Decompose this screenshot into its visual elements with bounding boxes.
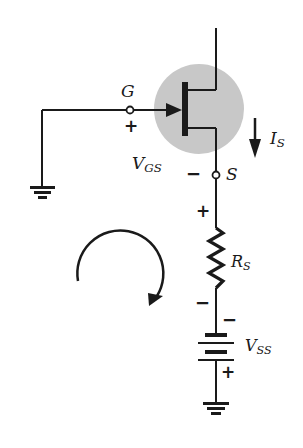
current-label: IS bbox=[270, 130, 285, 150]
resistor-rs bbox=[209, 228, 223, 288]
loop-arrow-icon bbox=[77, 231, 163, 306]
jfet-channel bbox=[182, 82, 188, 136]
gate-terminal bbox=[127, 107, 134, 114]
gate-label: G bbox=[121, 83, 135, 100]
battery-vss bbox=[198, 333, 234, 361]
rs-plus-sign: + bbox=[196, 203, 210, 220]
vgs-label-sub: GS bbox=[144, 161, 162, 175]
source-label: S bbox=[226, 166, 238, 183]
current-label-main: I bbox=[270, 128, 277, 148]
vss-label-main: V bbox=[245, 336, 257, 355]
vss-minus-sign: − bbox=[222, 311, 237, 329]
current-label-sub: S bbox=[277, 136, 285, 150]
rs-label-sub: S bbox=[243, 260, 251, 273]
vss-label-sub: SS bbox=[257, 344, 272, 357]
ground-icon-right bbox=[203, 402, 229, 415]
rs-label-main: R bbox=[231, 252, 243, 271]
circuit-diagram: G + VGS − S IS + RS − − VSS + bbox=[0, 0, 303, 448]
current-arrow-icon bbox=[249, 118, 261, 158]
vgs-label: VGS bbox=[132, 155, 162, 175]
rs-label: RS bbox=[231, 254, 251, 272]
source-terminal bbox=[213, 172, 220, 179]
vgs-minus-sign: − bbox=[186, 165, 201, 183]
rs-minus-sign: − bbox=[195, 294, 210, 312]
vss-label: VSS bbox=[245, 338, 272, 356]
ground-icon-left bbox=[30, 186, 55, 199]
circuit-schematic bbox=[0, 0, 303, 448]
vgs-plus-sign: + bbox=[124, 118, 138, 135]
vss-plus-sign: + bbox=[221, 364, 235, 381]
vgs-label-main: V bbox=[132, 153, 144, 173]
